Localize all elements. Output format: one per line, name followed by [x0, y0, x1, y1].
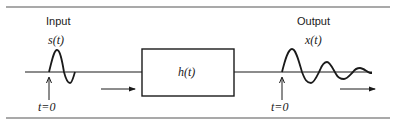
- input-time-arrowhead-icon: [129, 87, 136, 92]
- output-time-marker: t=0: [271, 101, 288, 113]
- output-signal-label: x(t): [305, 34, 322, 46]
- output-time-arrowhead-icon: [369, 87, 376, 92]
- input-waveform: [49, 50, 75, 83]
- input-title: Input: [46, 15, 70, 27]
- output-waveform: [282, 49, 372, 83]
- system-label: h(t): [178, 66, 195, 78]
- input-time-marker: t=0: [38, 101, 55, 113]
- input-signal-label: s(t): [48, 34, 64, 46]
- output-title: Output: [297, 15, 330, 27]
